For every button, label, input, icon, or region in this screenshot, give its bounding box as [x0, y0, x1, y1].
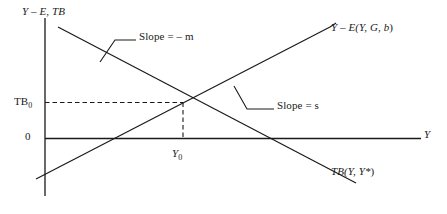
slope-m-annotation: Slope = – m	[139, 31, 194, 42]
tb0-tick-subscript: 0	[28, 101, 32, 110]
slope-s-annotation: Slope = s	[277, 100, 319, 111]
economics-diagram-figure: Y – E, TB Y 0 TB0 Y0 Slope = – m Slope =…	[0, 0, 447, 214]
x-axis-title: Y	[424, 129, 430, 140]
y-axis-title: Y – E, TB	[22, 6, 65, 17]
tb0-tick-base: TB	[14, 95, 28, 107]
y-axis-title-text: Y – E, TB	[22, 5, 65, 17]
income-expenditure-curve-label-close: )	[389, 21, 393, 33]
income-expenditure-curve-label-text: Y – E(Y, G, b	[331, 21, 389, 33]
origin-label: 0	[25, 131, 31, 142]
y0-tick-label: Y0	[172, 148, 182, 159]
y0-tick-subscript: 0	[178, 153, 182, 162]
slope-s-leader-line	[234, 86, 274, 109]
slope-s-annotation-text: Slope = s	[277, 99, 319, 111]
trade-balance-curve-label-close: )	[371, 165, 375, 177]
income-expenditure-curve-label: Y – E(Y, G, b)	[331, 22, 393, 33]
slope-m-annotation-text: Slope = – m	[139, 30, 194, 42]
tb0-tick-label: TB0	[14, 96, 32, 107]
trade-balance-curve-label: TB(Y, Y*)	[331, 166, 374, 177]
trade-balance-curve-label-text: TB(Y, Y*	[331, 165, 371, 177]
